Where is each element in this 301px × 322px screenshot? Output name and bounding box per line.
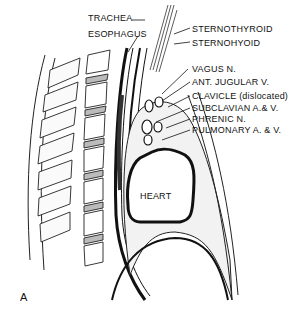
label-trachea: TRACHEA <box>88 13 132 23</box>
heart <box>128 149 195 222</box>
label-heart: HEART <box>140 191 171 201</box>
label-subclavian: SUBCLAVIAN A.& V. <box>192 103 278 113</box>
label-sternothyroid: STERNOTHYROID <box>192 24 273 34</box>
label-ant-jugular-v: ANT. JUGULAR V. <box>192 77 269 87</box>
label-phrenic-n: PHRENIC N. <box>192 114 246 124</box>
label-pulmonary: PULMONARY A. & V. <box>192 125 281 135</box>
anatomy-illustration <box>0 0 301 322</box>
label-esophagus: ESOPHAGUS <box>88 29 147 39</box>
vertebrae <box>84 50 110 266</box>
label-sternohyoid: STERNOHYOID <box>192 38 260 48</box>
label-vagus-n: VAGUS N. <box>192 64 236 74</box>
neck-muscles <box>150 5 177 72</box>
panel-letter: A <box>20 291 27 303</box>
ribs <box>38 58 80 242</box>
label-clavicle: CLAVICLE (dislocated) <box>192 91 288 101</box>
